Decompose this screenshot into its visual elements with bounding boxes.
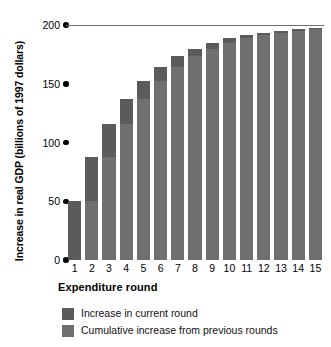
bar-segment-current-round-7 (171, 56, 184, 66)
legend-swatch-previous-rounds (62, 325, 74, 337)
bar-segment-current-round-3 (102, 124, 115, 157)
bar-round-5[interactable] (137, 81, 150, 260)
bar-round-3[interactable] (102, 124, 115, 260)
legend-item-current-round: Increase in current round (62, 307, 278, 320)
bar-segment-current-round-4 (120, 99, 133, 124)
y-tick-label-100: 100 (20, 137, 60, 149)
bar-round-8[interactable] (188, 49, 201, 261)
bar-segment-current-round-8 (188, 49, 201, 57)
bar-segment-previous-rounds-12 (257, 35, 270, 260)
bar-segment-previous-rounds-7 (171, 67, 184, 260)
bar-round-1[interactable] (68, 201, 81, 260)
y-tick-label-50: 50 (20, 195, 60, 207)
bar-segment-current-round-2 (85, 157, 98, 201)
bar-round-14[interactable] (292, 29, 305, 260)
x-tick-label-15: 15 (303, 262, 327, 274)
legend-item-previous-rounds: Cumulative increase from previous rounds (62, 324, 278, 337)
bar-segment-previous-rounds-9 (206, 49, 219, 261)
legend-swatch-current-round (62, 308, 74, 320)
bar-segment-previous-rounds-10 (223, 43, 236, 260)
bar-segment-previous-rounds-3 (102, 157, 115, 260)
bar-segment-previous-rounds-4 (120, 124, 133, 260)
chart-legend: Increase in current round Cumulative inc… (62, 307, 278, 337)
bar-round-9[interactable] (206, 43, 219, 260)
bar-round-15[interactable] (309, 28, 322, 260)
legend-label-current-round: Increase in current round (81, 307, 198, 320)
bar-round-2[interactable] (85, 157, 98, 260)
y-tick-label-200: 200 (20, 19, 60, 31)
bar-round-13[interactable] (274, 31, 287, 260)
bar-segment-current-round-6 (154, 67, 167, 81)
y-tick-label-150: 150 (20, 78, 60, 90)
bar-round-11[interactable] (240, 35, 253, 260)
bar-round-10[interactable] (223, 38, 236, 260)
bar-segment-previous-rounds-14 (292, 31, 305, 260)
bar-round-4[interactable] (120, 99, 133, 260)
bar-segment-previous-rounds-5 (137, 99, 150, 260)
bar-segment-previous-rounds-6 (154, 81, 167, 260)
y-axis-title: Increase in real GDP (billions of 1997 d… (11, 25, 27, 277)
bar-segment-previous-rounds-8 (188, 56, 201, 260)
bar-segment-previous-rounds-11 (240, 38, 253, 260)
x-axis-title: Expenditure round (58, 281, 157, 293)
bar-round-7[interactable] (171, 56, 184, 260)
bar-round-6[interactable] (154, 67, 167, 260)
chart-figure: Increase in real GDP (billions of 1997 d… (0, 0, 331, 347)
legend-label-previous-rounds: Cumulative increase from previous rounds (81, 324, 278, 337)
plot-area (66, 25, 324, 260)
bar-round-12[interactable] (257, 33, 270, 260)
y-tick-label-0: 0 (20, 254, 60, 266)
bar-segment-previous-rounds-2 (85, 201, 98, 260)
bar-segment-previous-rounds-15 (309, 29, 322, 260)
bar-segment-current-round-5 (137, 81, 150, 100)
bar-segment-previous-rounds-13 (274, 33, 287, 260)
bar-segment-current-round-1 (68, 201, 81, 260)
